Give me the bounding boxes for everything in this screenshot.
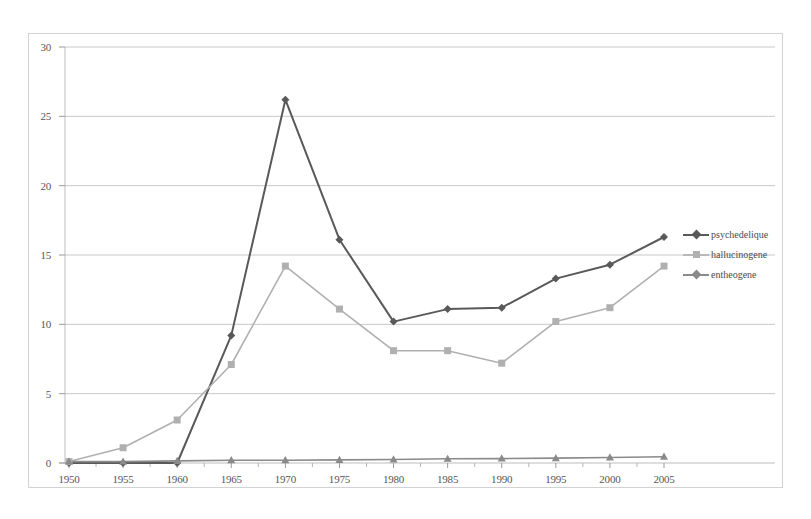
- legend-item-hallucinogene[interactable]: hallucinogene: [683, 245, 781, 265]
- legend-label: psychedelique: [711, 230, 768, 240]
- legend-item-entheogene[interactable]: entheogene: [683, 265, 781, 285]
- series-lines: [69, 100, 664, 463]
- x-axis-tick-label: 1955: [100, 473, 146, 485]
- square-marker-icon: [693, 251, 700, 258]
- x-axis-tick-label: 1990: [479, 473, 525, 485]
- legend-swatch-hallucinogene: [683, 249, 709, 261]
- x-axis-tick-label: 1985: [425, 473, 471, 485]
- x-axis-tick-label: 2005: [641, 473, 687, 485]
- x-axis-tick-label: 1975: [316, 473, 362, 485]
- x-axis-tick-label: 1965: [208, 473, 254, 485]
- y-axis-tick-label: 5: [25, 388, 51, 400]
- legend-swatch-entheogene: [683, 269, 709, 281]
- legend-swatch-psychedelique: [683, 229, 709, 241]
- diamond-marker-icon: [692, 230, 702, 240]
- tick-marks: [59, 47, 664, 468]
- y-axis-tick-label: 10: [25, 318, 51, 330]
- legend-label: hallucinogene: [711, 250, 767, 260]
- y-axis-tick-label: 30: [25, 41, 51, 53]
- gridlines: [65, 47, 775, 463]
- legend-item-psychedelique[interactable]: psychedelique: [683, 225, 781, 245]
- x-axis-tick-label: 1970: [262, 473, 308, 485]
- x-axis-tick-label: 1995: [533, 473, 579, 485]
- chart-legend: psychedelique hallucinogene entheogene: [683, 225, 781, 285]
- x-axis-tick-label: 1960: [154, 473, 200, 485]
- legend-label: entheogene: [711, 270, 757, 280]
- x-axis-tick-label: 1950: [46, 473, 92, 485]
- x-axis-tick-label: 1980: [371, 473, 417, 485]
- y-axis-tick-label: 15: [25, 249, 51, 261]
- y-axis-tick-label: 0: [25, 457, 51, 469]
- x-axis-tick-label: 2000: [587, 473, 633, 485]
- y-axis-tick-label: 25: [25, 110, 51, 122]
- triangle-marker-icon: [692, 270, 702, 280]
- y-axis-tick-label: 20: [25, 180, 51, 192]
- line-chart: 302520151050 195019551960196519701975198…: [0, 0, 811, 519]
